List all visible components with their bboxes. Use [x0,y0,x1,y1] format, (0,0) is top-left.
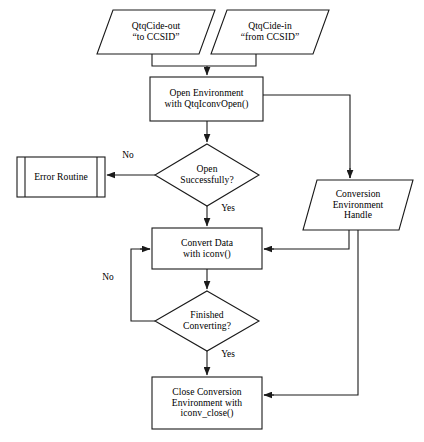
edge-qtqcide-out-to-merge [152,54,207,66]
node-convert-data [152,228,262,269]
node-open-environment [150,77,263,121]
node-conversion-environment-handle [303,180,413,230]
edge-handle-to-close-conversion [264,230,358,395]
edge-label-no-converting: No [98,272,118,282]
edge-handle-to-convert-data [264,230,349,249]
node-qtqcide-in [211,10,329,54]
edge-qtqcide-in-to-merge [207,54,256,66]
node-close-conversion [152,377,262,429]
node-error-routine [17,157,105,197]
edge-open-environment-to-handle [263,95,350,178]
edge-label-yes-open: Yes [216,203,240,213]
node-open-successfully [155,144,259,206]
edge-label-no-open: No [118,150,138,160]
edge-label-yes-converting: Yes [216,349,240,359]
node-finished-converting [155,291,259,351]
flowchart-graphics: Error Routine --> Convert Data --> back … [0,0,424,442]
edge-decision-no-loop-to-convert-data [131,249,155,321]
flowchart-canvas: Error Routine --> Convert Data --> back … [0,0,424,442]
node-qtqcide-out [97,10,215,54]
